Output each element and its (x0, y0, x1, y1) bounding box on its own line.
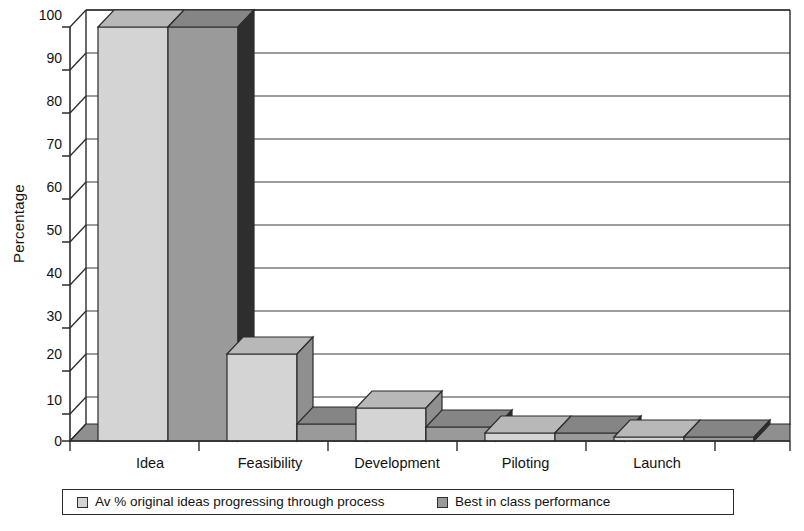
y-axis-ticks (62, 27, 70, 441)
legend-swatch-series1-icon (77, 497, 88, 508)
bar-chart: Percentage 100 90 80 70 60 50 40 30 20 1… (0, 0, 804, 531)
plot-area (0, 0, 804, 531)
legend-swatch-series2-icon (437, 497, 448, 508)
legend-item-series2: Best in class performance (437, 493, 610, 511)
legend-item-series1: Av % original ideas progressing through … (77, 493, 384, 511)
axis-depth-connectors (70, 10, 86, 441)
x-tick-label-development: Development (337, 455, 457, 471)
x-tick-label-piloting: Piloting (473, 455, 578, 471)
x-tick-label-launch: Launch (602, 455, 712, 471)
bar-group-launch (614, 420, 770, 441)
x-axis-ticks (70, 441, 790, 451)
bar-launch-series2 (684, 420, 770, 441)
legend-label-series1: Av % original ideas progressing through … (95, 495, 384, 509)
chart-legend: Av % original ideas progressing through … (62, 489, 734, 515)
x-tick-label-feasibility: Feasibility (215, 455, 325, 471)
legend-label-series2: Best in class performance (455, 495, 610, 509)
x-tick-label-idea: Idea (100, 455, 200, 471)
